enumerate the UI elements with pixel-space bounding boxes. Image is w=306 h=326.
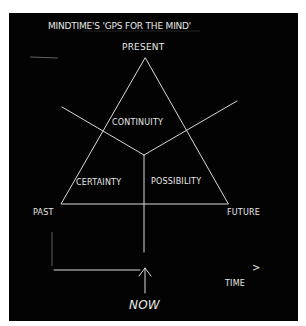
- now-marker-label: NOW: [129, 299, 160, 311]
- region-label-continuity: CONTINUITY: [112, 119, 163, 127]
- region-label-certainty: CERTAINTY: [76, 179, 121, 187]
- diagram-title: MINDTIME'S 'GPS FOR THE MIND': [48, 22, 191, 31]
- vertex-label-past: PAST: [33, 209, 54, 217]
- vertex-label-future: FUTURE: [227, 209, 260, 217]
- region-label-possibility: POSSIBILITY: [151, 178, 201, 186]
- spoke-right: [144, 101, 237, 155]
- up-arrow-icon: [139, 268, 151, 293]
- time-arrow-icon: >: [252, 263, 261, 273]
- spoke-left: [62, 107, 144, 155]
- vertex-label-present: PRESENT: [122, 43, 164, 52]
- chalk-smudge: [30, 57, 58, 58]
- time-axis-label: TIME: [225, 280, 245, 288]
